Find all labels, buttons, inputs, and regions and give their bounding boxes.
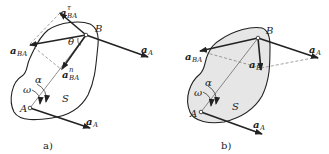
svg-text:A: A <box>147 49 153 57</box>
caption-b: b) <box>221 140 231 151</box>
label-theta: θ <box>68 36 74 47</box>
svg-text:a: a <box>10 45 16 56</box>
label-point-A: A <box>189 108 197 119</box>
svg-text:n: n <box>69 66 74 74</box>
svg-text:BA: BA <box>191 56 202 64</box>
label-omega: ω <box>194 87 202 98</box>
caption-a: a) <box>43 140 53 151</box>
point-A-marker <box>28 106 32 110</box>
svg-text:a: a <box>249 59 255 70</box>
label-aA-at-A: a A <box>253 119 265 132</box>
svg-text:BA: BA <box>66 12 77 20</box>
label-body-S: S <box>62 93 69 104</box>
svg-text:a: a <box>309 44 315 55</box>
svg-text:B: B <box>255 64 261 72</box>
label-point-B: B <box>265 25 273 36</box>
label-point-A: A <box>19 103 27 114</box>
point-A-marker <box>199 110 203 114</box>
arrow-aA-at-A <box>30 108 90 128</box>
label-alpha: α <box>205 77 212 88</box>
dashed-line <box>30 44 62 70</box>
dashed-line <box>30 13 60 44</box>
svg-text:a: a <box>185 51 191 62</box>
label-aBA: a BA <box>10 45 27 58</box>
svg-text:BA: BA <box>68 74 79 82</box>
svg-text:A: A <box>259 124 265 132</box>
point-B-marker <box>84 33 88 37</box>
label-point-B: B <box>94 23 102 34</box>
label-aBA-n: a n BA <box>62 66 79 82</box>
panel-b: A B S ω α a BA a B a A a A b) <box>185 25 321 151</box>
arrow-aA-at-B <box>86 35 148 57</box>
point-B-marker <box>256 36 260 40</box>
label-alpha: α <box>35 74 42 85</box>
panel-a: A B S ω α θ a τ BA a BA a n BA a A a A a… <box>10 4 153 151</box>
svg-text:a: a <box>62 69 68 80</box>
svg-text:a: a <box>60 7 66 18</box>
svg-text:a: a <box>86 116 92 127</box>
svg-text:A: A <box>92 121 98 129</box>
svg-text:τ: τ <box>67 4 71 12</box>
svg-text:A: A <box>315 49 321 57</box>
label-aBA: a BA <box>185 51 202 64</box>
svg-text:BA: BA <box>16 50 27 58</box>
label-body-S: S <box>232 101 239 112</box>
label-omega: ω <box>23 84 31 95</box>
label-aBA-tau: a τ BA <box>60 4 77 20</box>
kinematics-diagram: A B S ω α θ a τ BA a BA a n BA a A a A a… <box>0 0 329 154</box>
omega-arc <box>32 90 40 104</box>
svg-text:a: a <box>141 44 147 55</box>
svg-text:a: a <box>253 119 259 130</box>
